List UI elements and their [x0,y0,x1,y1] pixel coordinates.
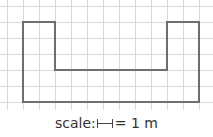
scale-caption: scale:= 1 m [0,113,213,132]
scale-bar-icon [97,119,113,128]
grid-diagram [0,0,213,112]
u-shape-outline [23,22,199,102]
scale-value: = 1 m [115,115,158,131]
grid-lines [0,0,213,110]
scale-label: scale: [55,115,96,131]
